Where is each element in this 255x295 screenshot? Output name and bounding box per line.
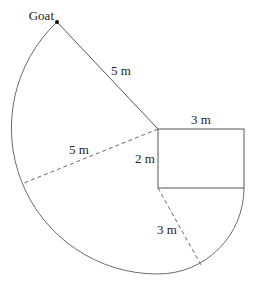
barn-height-label: 2 m xyxy=(135,151,155,166)
rope-line xyxy=(57,22,158,129)
left-radius-label: 5 m xyxy=(69,142,89,157)
rope-length-label: 5 m xyxy=(111,63,131,78)
small-radius-label: 3 m xyxy=(157,222,177,237)
barn-width-label: 3 m xyxy=(191,112,211,127)
barn-rectangle xyxy=(158,129,244,188)
diagram-canvas: Goat 5 m 5 m 3 m 2 m 3 m xyxy=(0,0,255,295)
goat-point-icon xyxy=(55,20,59,24)
goat-label: Goat xyxy=(29,8,55,23)
